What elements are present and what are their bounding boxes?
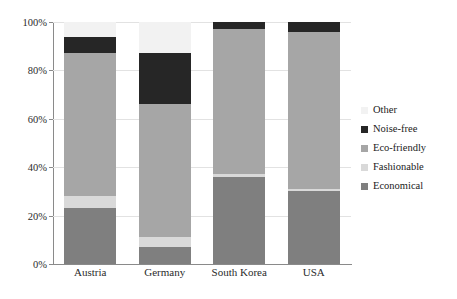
- bar-usa[interactable]: [288, 22, 340, 264]
- bar-segment-fashionable[interactable]: [64, 196, 116, 208]
- y-axis-tick-label: 80%: [28, 65, 47, 76]
- y-axis-tick-mark: [49, 216, 53, 217]
- y-axis-tick-mark: [49, 167, 53, 168]
- bar-segment-other[interactable]: [64, 22, 116, 37]
- bar-segment-eco-friendly[interactable]: [288, 32, 340, 189]
- bar-segment-eco-friendly[interactable]: [139, 104, 191, 237]
- legend-item-eco-friendly[interactable]: Eco-friendly: [361, 139, 455, 158]
- y-axis-tick-mark: [49, 119, 53, 120]
- bar-segment-noise-free[interactable]: [64, 37, 116, 54]
- bar-south-korea[interactable]: [213, 22, 265, 264]
- bar-segment-economical[interactable]: [139, 247, 191, 264]
- legend-label: Economical: [373, 181, 423, 192]
- legend-swatch-icon: [361, 107, 368, 114]
- y-axis-tick-label: 60%: [28, 113, 47, 124]
- y-axis-tick-mark: [49, 264, 53, 265]
- legend-item-other[interactable]: Other: [361, 101, 455, 120]
- legend-label: Eco-friendly: [373, 143, 426, 154]
- bar-segment-eco-friendly[interactable]: [64, 53, 116, 196]
- legend-swatch-icon: [361, 126, 368, 133]
- plot-area: 0%20%40%60%80%100%AustriaGermanySouth Ko…: [53, 22, 351, 264]
- y-axis-tick-label: 40%: [28, 162, 47, 173]
- y-axis-tick-mark: [49, 22, 53, 23]
- bar-segment-noise-free[interactable]: [213, 22, 265, 29]
- legend-item-economical[interactable]: Economical: [361, 177, 455, 196]
- legend-swatch-icon: [361, 145, 368, 152]
- chart-legend: OtherNoise-freeEco-friendlyFashionableEc…: [361, 101, 455, 196]
- y-axis-tick-label: 100%: [23, 17, 48, 28]
- legend-item-noise-free[interactable]: Noise-free: [361, 120, 455, 139]
- bar-segment-fashionable[interactable]: [213, 174, 265, 176]
- bar-austria[interactable]: [64, 22, 116, 264]
- legend-label: Other: [373, 105, 397, 116]
- bar-segment-economical[interactable]: [213, 177, 265, 264]
- y-axis-tick-mark: [49, 70, 53, 71]
- legend-swatch-icon: [361, 183, 368, 190]
- bar-segment-noise-free[interactable]: [288, 22, 340, 32]
- x-axis-tick-label: USA: [264, 266, 364, 278]
- legend-label: Fashionable: [373, 162, 424, 173]
- bar-segment-fashionable[interactable]: [288, 189, 340, 191]
- bar-segment-economical[interactable]: [288, 191, 340, 264]
- bar-segment-economical[interactable]: [64, 208, 116, 264]
- stacked-bar-chart: 0%20%40%60%80%100%AustriaGermanySouth Ko…: [0, 0, 457, 299]
- bar-segment-noise-free[interactable]: [139, 53, 191, 104]
- bar-segment-eco-friendly[interactable]: [213, 29, 265, 174]
- bar-segment-fashionable[interactable]: [139, 237, 191, 247]
- legend-label: Noise-free: [373, 124, 417, 135]
- y-axis-tick-label: 20%: [28, 210, 47, 221]
- bar-germany[interactable]: [139, 22, 191, 264]
- bar-segment-other[interactable]: [139, 22, 191, 53]
- gridline: [53, 264, 351, 265]
- legend-item-fashionable[interactable]: Fashionable: [361, 158, 455, 177]
- legend-swatch-icon: [361, 164, 368, 171]
